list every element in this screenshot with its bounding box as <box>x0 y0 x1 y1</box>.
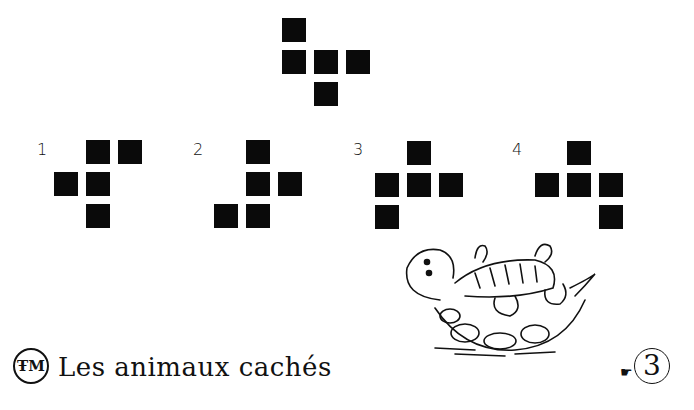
option-square <box>54 172 78 196</box>
option-1-label: 1 <box>37 140 47 159</box>
option-3-label: 3 <box>353 140 363 159</box>
option-square <box>86 172 110 196</box>
option-square <box>407 173 431 197</box>
option-4-label: 4 <box>512 140 522 159</box>
option-square <box>246 172 270 196</box>
publisher-logo: ŦM <box>13 348 49 384</box>
target-square <box>314 82 338 106</box>
target-square <box>314 50 338 74</box>
option-square <box>86 140 110 164</box>
option-square <box>599 173 623 197</box>
option-square <box>118 140 142 164</box>
target-square <box>282 18 306 42</box>
turtle-illustration <box>395 238 605 358</box>
option-2-label: 2 <box>193 140 203 159</box>
target-square <box>346 50 370 74</box>
target-square <box>282 50 306 74</box>
option-square <box>246 204 270 228</box>
option-square <box>439 173 463 197</box>
option-square <box>535 173 559 197</box>
option-square <box>246 140 270 164</box>
option-square <box>567 141 591 165</box>
option-square <box>86 204 110 228</box>
option-square <box>599 205 623 229</box>
option-square <box>375 205 399 229</box>
option-square <box>567 173 591 197</box>
pointing-hand-icon: ☛ <box>620 364 633 380</box>
option-square <box>214 204 238 228</box>
option-square <box>407 141 431 165</box>
option-square <box>375 173 399 197</box>
option-square <box>278 172 302 196</box>
page-number: 3 <box>634 348 670 384</box>
page-title: Les animaux cachés <box>58 352 332 382</box>
